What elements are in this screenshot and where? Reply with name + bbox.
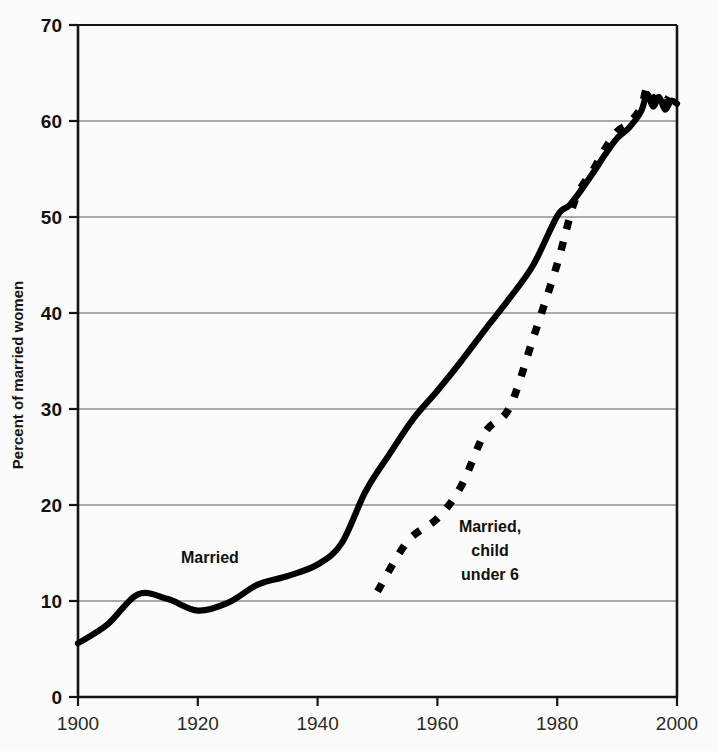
y-tick-label: 20 [41, 495, 62, 516]
y-tick-label: 50 [41, 207, 62, 228]
chart-figure: 010203040506070 190019201940196019802000… [0, 0, 718, 751]
x-tick-label: 1960 [416, 713, 458, 734]
y-tick-label: 60 [41, 111, 62, 132]
y-tick-label: 10 [41, 591, 62, 612]
y-tick-label: 70 [41, 15, 62, 36]
x-tick-label: 1920 [177, 713, 219, 734]
annotation-married-child-line1: Married, [459, 518, 521, 535]
annotation-married-child-line2: child [471, 542, 508, 559]
x-tick-label: 1900 [57, 713, 99, 734]
x-tick-label: 2000 [656, 713, 698, 734]
line-chart: 010203040506070 190019201940196019802000… [0, 0, 718, 751]
chart-background [0, 0, 718, 751]
annotation-married-child-line3: under 6 [461, 566, 519, 583]
y-tick-label: 0 [51, 687, 62, 708]
annotation-married: Married [181, 549, 239, 566]
y-tick-label: 40 [41, 303, 62, 324]
x-tick-label: 1940 [296, 713, 338, 734]
y-axis-label: Percent of married women [9, 281, 26, 469]
y-tick-label: 30 [41, 399, 62, 420]
x-tick-label: 1980 [536, 713, 578, 734]
